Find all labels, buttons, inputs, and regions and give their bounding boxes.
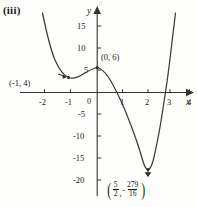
annotation-leader-global-min [145, 171, 152, 178]
y-tick-label: 10 [77, 43, 86, 53]
graph-figure: (iii) [0, 0, 197, 207]
fraction-denominator: 2 [113, 189, 119, 198]
curve-path [43, 13, 176, 170]
y-axis-label: y [87, 6, 91, 16]
x-tick-label: 3 [167, 97, 171, 107]
close-paren: ) [141, 180, 145, 199]
open-paren: ( [107, 180, 111, 199]
y-tick-label: 15 [77, 21, 86, 31]
marker-local-min [67, 76, 70, 79]
y-tick-label: -20 [73, 175, 84, 185]
x-tick-label: -2 [39, 97, 46, 107]
annotation-local-min: (-1, 4) [9, 78, 30, 88]
x-axis [20, 89, 194, 96]
fraction-numerator: 5 [113, 181, 119, 189]
y-tick-label: -5 [78, 109, 85, 119]
annotation-leader-local-min [58, 74, 67, 79]
fraction-denominator: 16 [128, 189, 138, 198]
annotation-y-intercept: (0, 6) [101, 52, 119, 62]
y-tick-label: 5 [84, 65, 88, 75]
y-axis [93, 6, 101, 196]
fraction-279-16: 279 16 [126, 181, 139, 197]
minus-sign: - [122, 185, 125, 195]
x-axis-label: x [186, 97, 190, 107]
x-tick-label: -1 [65, 97, 72, 107]
x-tick-label: 0 [87, 96, 91, 106]
marker-y-intercept [96, 66, 99, 69]
y-tick-label: -10 [73, 131, 84, 141]
y-tick-label: -15 [73, 153, 84, 163]
x-tick-label: 2 [145, 97, 149, 107]
fraction-numerator: 279 [126, 181, 139, 189]
annotation-global-min: ( 5 2 , - 279 16 ) [106, 180, 146, 199]
crop-artifact-glyph: 2 [99, 0, 103, 7]
x-tick-label: 1 [120, 97, 124, 107]
fraction-five-halves: 5 2 [113, 181, 119, 197]
